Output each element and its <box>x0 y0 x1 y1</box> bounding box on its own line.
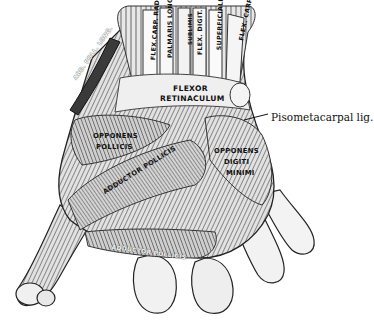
hand-illustration <box>0 0 374 323</box>
region-label: MINIMI <box>226 170 255 177</box>
pisiform <box>230 83 250 107</box>
region-label: POLLICIS <box>96 144 133 151</box>
region-label: OPPONENS <box>93 133 138 140</box>
callout: Pisometacarpal lig. <box>271 112 373 123</box>
region-label: DIGITI <box>224 159 249 166</box>
region-label: RETINACULUM <box>160 95 225 103</box>
tendon-label: SUBLIMIS <box>188 13 194 45</box>
tendon-label: PALMARIS LONG. <box>167 0 173 58</box>
anatomical-figure: FLEX.CARP. RAD.PALMARIS LONG.FLEX. DIGIT… <box>0 0 374 323</box>
tendon-label: FLEX. DIGIT. <box>197 9 203 55</box>
region-label: OPPONENS <box>214 148 259 155</box>
region-label: FLEXOR <box>173 85 208 93</box>
